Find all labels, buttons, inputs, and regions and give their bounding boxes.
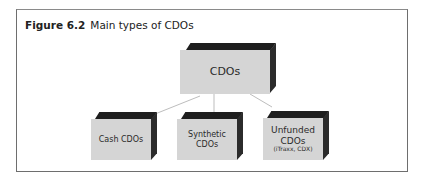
node-synthetic-cdos: Synthetic CDOs [177,112,243,162]
node-label: Cash CDOs [99,135,143,144]
node-cdos: CDOs [180,43,276,99]
node-top-bevel [181,112,243,119]
node-face: Synthetic CDOs [177,119,237,160]
node-top-bevel [186,43,276,50]
node-side-bevel [323,111,329,160]
node-face: Unfunded CDOs (iTraxx, CDX) [263,118,323,160]
node-label-line-2: CDOs [196,140,218,149]
node-side-bevel [237,112,243,160]
node-cash-cdos: Cash CDOs [91,112,157,162]
node-unfunded-cdos: Unfunded CDOs (iTraxx, CDX) [263,111,329,162]
node-face: CDOs [180,50,270,94]
node-label-line-1: Unfunded [271,125,315,135]
node-label: CDOs [210,66,241,79]
node-note: (iTraxx, CDX) [273,146,312,153]
node-face: Cash CDOs [91,119,151,160]
node-label-line-1: Synthetic [188,130,226,139]
node-top-bevel [267,111,329,118]
node-side-bevel [151,112,157,160]
node-top-bevel [95,112,157,119]
node-side-bevel [270,43,276,93]
